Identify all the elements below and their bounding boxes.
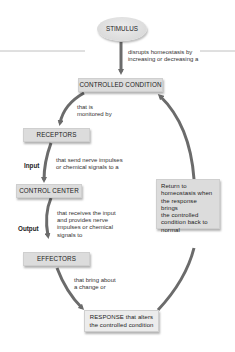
response-node: RESPONSE that alters the controlled cond… [84, 310, 159, 332]
caption-line: a change or [74, 284, 116, 291]
stimulus-node: STIMULUS [97, 17, 147, 41]
control-center-node: CONTROL CENTER [16, 184, 82, 198]
caption-line: monitored by [77, 111, 112, 118]
receptors-caption: that send nerve impulses or chemical sig… [56, 157, 123, 171]
caption-line: or chemical signals to a [56, 164, 123, 171]
caption-line: impulses or chemical [57, 224, 116, 231]
effectors-node: EFFECTORS [23, 252, 90, 266]
caption-line: and provides nerve [57, 217, 116, 224]
stimulus-caption: disrupts homeostasis by increasing or de… [128, 49, 198, 63]
return-line: normal [161, 227, 215, 234]
caption-line: increasing or decreasing a [128, 56, 198, 63]
output-label: Output [18, 225, 39, 232]
control-center-caption: that receives the input and provides ner… [57, 210, 116, 239]
receptors-node: RECEPTORS [23, 128, 90, 142]
monitored-caption: that is monitored by [77, 104, 112, 118]
input-label: Input [24, 162, 39, 169]
response-line: the controlled condition [85, 322, 158, 330]
response-line: RESPONSE that alters [85, 314, 158, 322]
return-line: homeostasis when [161, 190, 215, 197]
return-line: Return to [161, 183, 215, 190]
caption-line: that is [77, 104, 112, 111]
controlled-condition-node: CONTROLLED CONDITION [78, 78, 163, 92]
effectors-caption: that bring about a change or [74, 277, 116, 291]
caption-line: disrupts homeostasis by [128, 49, 198, 56]
return-line: condition back to [161, 219, 215, 226]
return-line: the controlled [161, 212, 215, 219]
arrows-layer [0, 0, 235, 352]
return-line: the response brings [161, 198, 215, 213]
caption-line: signals to [57, 232, 116, 239]
caption-line: that bring about [74, 277, 116, 284]
return-to-homeostasis-node: Return to homeostasis when the response … [156, 179, 220, 229]
caption-line: that send nerve impulses [56, 157, 123, 164]
caption-line: that receives the input [57, 210, 116, 217]
